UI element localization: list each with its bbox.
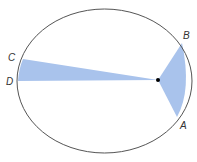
label-a: A [179, 120, 187, 131]
sun-dot [156, 78, 160, 82]
label-c: C [8, 52, 16, 63]
label-d: D [6, 76, 13, 87]
orbit-diagram: B A C D [0, 0, 197, 162]
sector-c-d [18, 59, 158, 81]
label-b: B [183, 30, 190, 41]
sector-a-b [158, 43, 186, 117]
